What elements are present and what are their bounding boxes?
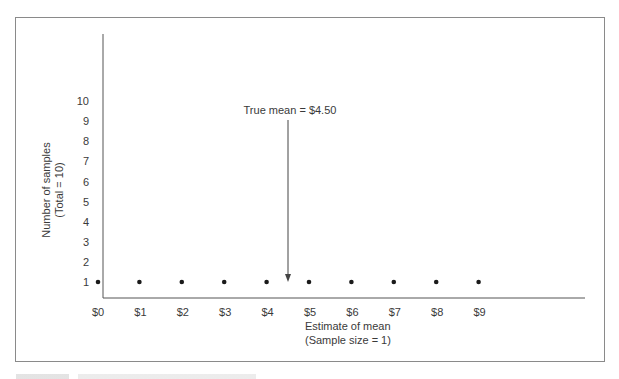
y-axis-title: Number of samples <box>40 142 52 238</box>
y-tick-label: 3 <box>83 236 89 248</box>
arrow-head-icon <box>285 274 291 282</box>
y-tick-labels: 12345678910 <box>77 95 89 288</box>
y-tick-label: 6 <box>83 176 89 188</box>
data-point <box>96 280 101 285</box>
y-tick-label: 5 <box>83 196 89 208</box>
y-tick-label: 7 <box>83 155 89 167</box>
x-tick-label: $7 <box>389 306 401 318</box>
y-axis-subtitle: (Total = 10) <box>53 162 65 217</box>
y-tick-label: 9 <box>83 115 89 127</box>
true-mean-label: True mean = $4.50 <box>244 104 337 116</box>
x-axis-title: Estimate of mean <box>305 320 391 332</box>
x-tick-label: $3 <box>219 306 231 318</box>
data-point <box>476 280 481 285</box>
data-point <box>349 280 354 285</box>
y-tick-label: 8 <box>83 135 89 147</box>
x-tick-label: $5 <box>304 306 316 318</box>
x-tick-label: $8 <box>431 306 443 318</box>
data-point <box>434 280 439 285</box>
figure-caption-cropped <box>16 374 256 379</box>
data-point <box>264 280 269 285</box>
x-tick-label: $2 <box>177 306 189 318</box>
x-axis-subtitle: (Sample size = 1) <box>305 334 391 346</box>
x-tick-label: $9 <box>473 306 485 318</box>
y-tick-label: 2 <box>83 256 89 268</box>
data-point <box>222 280 227 285</box>
x-tick-label: $6 <box>346 306 358 318</box>
x-tick-label: $0 <box>92 306 104 318</box>
true-mean-annotation: True mean = $4.50 <box>244 104 337 282</box>
data-point <box>137 280 142 285</box>
data-point <box>180 280 185 285</box>
x-tick-label: $4 <box>261 306 273 318</box>
scatter-chart: 12345678910 $0$1$2$3$4$5$6$7$8$9 True me… <box>0 0 619 379</box>
y-tick-label: 10 <box>77 95 89 107</box>
data-point <box>307 280 312 285</box>
x-tick-label: $1 <box>134 306 146 318</box>
x-tick-labels: $0$1$2$3$4$5$6$7$8$9 <box>92 306 486 318</box>
y-tick-label: 1 <box>83 276 89 288</box>
y-tick-label: 4 <box>83 216 89 228</box>
data-point <box>392 280 397 285</box>
